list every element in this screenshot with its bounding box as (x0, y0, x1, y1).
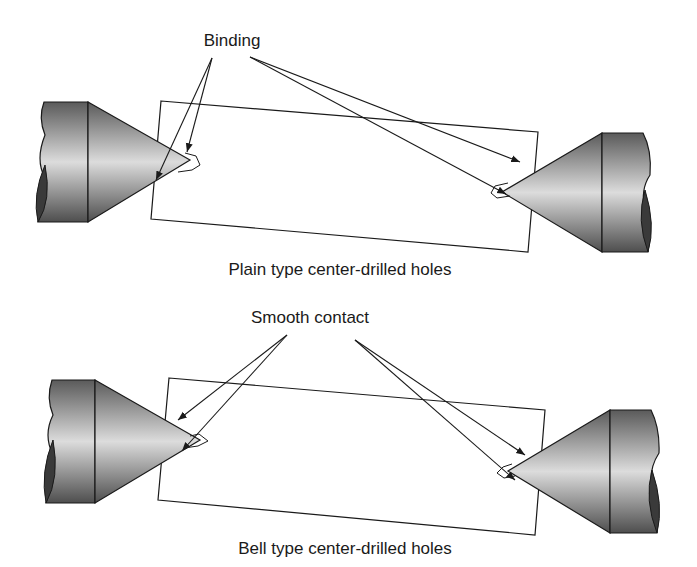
bell-panel (44, 335, 659, 535)
binding-label: Binding (204, 31, 261, 51)
plain-panel (36, 57, 651, 252)
smooth-contact-callout-arrows (178, 335, 525, 480)
left-lathe-center-plain (36, 102, 200, 222)
diagram-canvas (0, 0, 697, 567)
left-lathe-center-bell (44, 380, 208, 503)
smooth-contact-label: Smooth contact (251, 308, 369, 328)
right-lathe-center-bell (497, 410, 660, 533)
plain-caption: Plain type center-drilled holes (228, 260, 451, 280)
right-lathe-center-plain (491, 133, 651, 252)
workpiece-rect-bell (158, 378, 545, 535)
bell-caption: Bell type center-drilled holes (238, 539, 452, 559)
workpiece-rect-plain (151, 101, 538, 252)
